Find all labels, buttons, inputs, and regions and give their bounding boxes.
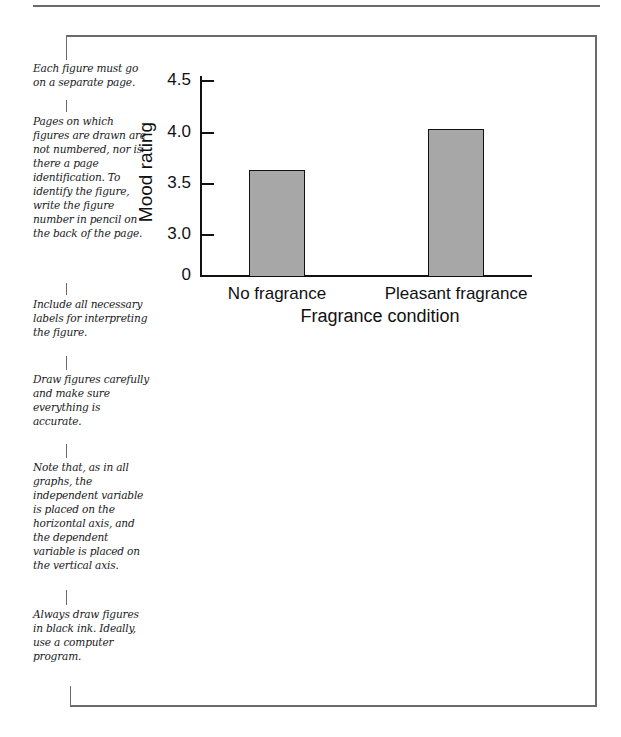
- y-tick: [201, 132, 214, 134]
- y-axis: [200, 76, 202, 277]
- y-tick: [201, 183, 214, 185]
- y-tick-label: 3.5: [151, 173, 191, 193]
- page-header-rule: [33, 5, 600, 7]
- bar-no-fragrance: [249, 170, 305, 277]
- note-accuracy: Draw figures carefully and make sure eve…: [33, 372, 151, 428]
- x-axis-label: Fragrance condition: [280, 306, 480, 327]
- y-tick-label: 0: [151, 265, 191, 285]
- connector: [66, 35, 67, 60]
- frame-top: [66, 35, 597, 37]
- y-axis-label: Mood rating: [135, 117, 157, 227]
- y-tick: [201, 234, 214, 236]
- frame-bottom: [70, 705, 597, 707]
- connector: [66, 283, 67, 295]
- y-tick-label: 4.0: [151, 122, 191, 142]
- y-tick-label: 3.0: [151, 224, 191, 244]
- connector: [66, 100, 67, 112]
- connector: [66, 444, 67, 458]
- connector: [70, 686, 71, 706]
- frame-right: [595, 35, 597, 707]
- note-axes: Note that, as in all graphs, the indepen…: [33, 460, 151, 572]
- connector: [66, 356, 67, 370]
- note-labels: Include all necessary labels for interpr…: [33, 297, 151, 339]
- y-tick-label: 4.5: [151, 70, 191, 90]
- bar-pleasant-fragrance: [428, 129, 484, 277]
- note-page-identification: Pages on which figures are drawn are not…: [33, 114, 151, 240]
- y-tick: [201, 80, 214, 82]
- x-category-label: Pleasant fragrance: [376, 284, 536, 304]
- x-category-label: No fragrance: [217, 284, 337, 304]
- connector: [66, 590, 67, 605]
- note-black-ink: Always draw figures in black ink. Ideall…: [33, 607, 151, 663]
- note-separate-page: Each figure must go on a separate page.: [33, 61, 151, 89]
